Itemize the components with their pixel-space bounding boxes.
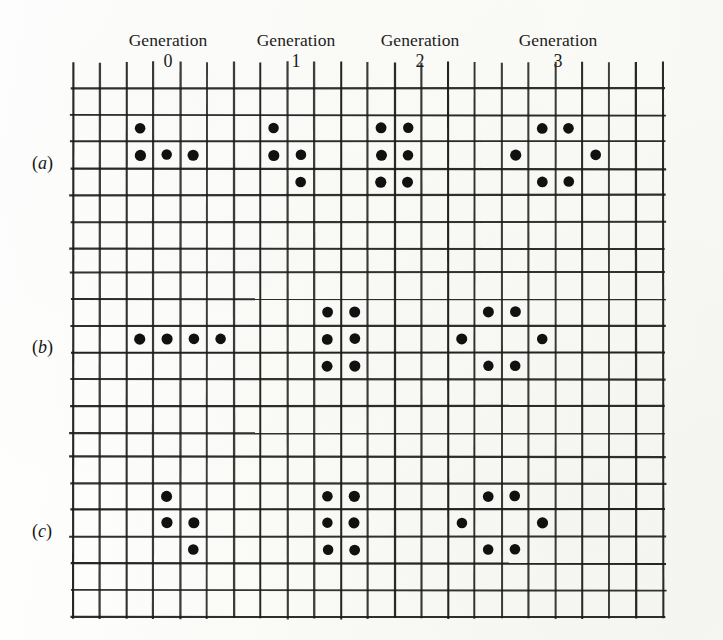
live-cell-dot bbox=[510, 544, 521, 555]
live-cell-dot bbox=[322, 361, 333, 372]
live-cell-dot bbox=[349, 545, 360, 556]
live-cell-dot bbox=[322, 334, 333, 345]
live-cell-dot bbox=[510, 306, 521, 317]
live-cell-dot bbox=[349, 360, 360, 371]
live-cell-dot bbox=[161, 333, 172, 344]
live-cell-dot bbox=[537, 517, 548, 528]
live-cell-dot bbox=[323, 544, 334, 555]
live-cell-dot bbox=[537, 177, 548, 188]
live-cell-dot bbox=[161, 149, 171, 159]
live-cell-dot bbox=[510, 150, 521, 161]
live-cell-dot bbox=[403, 150, 414, 161]
live-cell-dot bbox=[350, 333, 361, 344]
live-cell-dot bbox=[537, 334, 548, 345]
grid-and-dots-canvas bbox=[0, 0, 723, 640]
live-cell-dot bbox=[188, 517, 199, 528]
live-cell-dot bbox=[135, 150, 146, 161]
live-cell-dot bbox=[295, 177, 306, 188]
live-cell-dot bbox=[375, 177, 386, 188]
live-cell-dot bbox=[135, 123, 146, 134]
live-cell-dot bbox=[457, 518, 468, 529]
live-cell-dot bbox=[189, 334, 200, 345]
live-cell-dot bbox=[322, 307, 333, 318]
live-cell-dot bbox=[322, 491, 333, 502]
live-cell-dot bbox=[188, 544, 199, 555]
live-cell-dot bbox=[376, 150, 387, 161]
live-cell-dot bbox=[349, 307, 360, 318]
live-cell-dot bbox=[134, 334, 145, 345]
live-cell-dot bbox=[215, 334, 226, 345]
live-cell-dot bbox=[322, 517, 332, 527]
live-cell-dot bbox=[161, 517, 172, 528]
live-cell-dot bbox=[268, 150, 279, 161]
live-cell-dot bbox=[376, 122, 387, 133]
live-cell-dot bbox=[188, 150, 199, 161]
live-cell-dot bbox=[537, 123, 548, 134]
live-cell-dot bbox=[483, 361, 493, 371]
live-cell-dot bbox=[509, 491, 520, 502]
live-cell-dot bbox=[456, 333, 467, 344]
live-cell-dot bbox=[483, 491, 494, 502]
live-cell-dot bbox=[563, 123, 574, 134]
live-cell-dot bbox=[348, 517, 359, 528]
live-cell-dot bbox=[563, 176, 574, 187]
live-cell-dot bbox=[161, 491, 172, 502]
live-cell-dot bbox=[510, 360, 521, 371]
live-cell-dot bbox=[483, 307, 494, 318]
live-cell-dot bbox=[483, 544, 493, 554]
panel-c-live-cells bbox=[161, 491, 548, 556]
live-cell-dot bbox=[590, 149, 601, 160]
live-cell-dot bbox=[296, 149, 307, 160]
live-cell-dot bbox=[402, 177, 413, 188]
live-cell-dot bbox=[268, 123, 279, 133]
figure-generation-grids: Generation0Generation1Generation2Generat… bbox=[0, 0, 723, 640]
live-cell-dot bbox=[349, 491, 360, 502]
live-cell-dot bbox=[403, 123, 413, 133]
